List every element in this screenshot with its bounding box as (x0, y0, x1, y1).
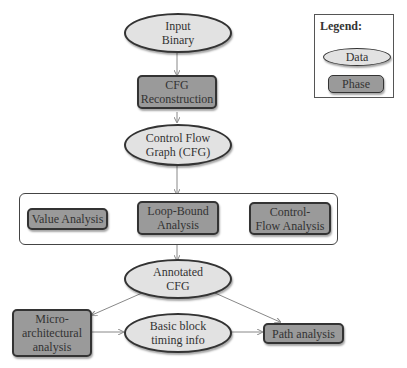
node-control-flow-analysis: Control- Flow Analysis (249, 202, 331, 235)
edge-annotated-to-micro (92, 293, 142, 315)
legend-phase-label: Phase (342, 77, 370, 91)
node-basic-block-timing-info: Basic block timing info (124, 313, 232, 353)
node-path-analysis-label: Path analysis (272, 327, 335, 341)
node-cfg-reconstruction: CFG Reconstruction (137, 75, 217, 109)
node-cfg-reconstruction-label: CFG Reconstruction (141, 78, 214, 106)
node-annotated-cfg-label: Annotated CFG (153, 265, 203, 293)
analyses-group: Value Analysis Loop-Bound Analysis Contr… (19, 193, 338, 245)
node-loop-bound-analysis: Loop-Bound Analysis (137, 201, 219, 235)
node-annotated-cfg: Annotated CFG (124, 259, 232, 299)
node-control-flow-analysis-label: Control- Flow Analysis (255, 205, 324, 233)
node-basic-block-timing-info-label: Basic block timing info (150, 319, 206, 347)
node-micro-architectural-analysis-label: Micro- architectural analysis (22, 312, 82, 354)
node-value-analysis-label: Value Analysis (32, 212, 104, 226)
node-loop-bound-analysis-label: Loop-Bound Analysis (147, 204, 208, 232)
node-micro-architectural-analysis: Micro- architectural analysis (12, 309, 92, 357)
node-path-analysis: Path analysis (263, 323, 344, 344)
legend-data-label: Data (346, 50, 369, 64)
node-cfg-label: Control Flow Graph (CFG) (146, 131, 210, 159)
legend-phase-swatch: Phase (328, 75, 384, 93)
legend-box: Legend: Data Phase (314, 14, 394, 98)
node-input-binary: Input Binary (124, 13, 232, 53)
node-cfg: Control Flow Graph (CFG) (124, 124, 232, 166)
edge-annotated-to-path (215, 293, 280, 322)
node-input-binary-label: Input Binary (162, 19, 195, 47)
node-value-analysis: Value Analysis (27, 208, 108, 230)
legend-data-swatch: Data (323, 48, 391, 66)
legend-title: Legend: (320, 19, 362, 34)
